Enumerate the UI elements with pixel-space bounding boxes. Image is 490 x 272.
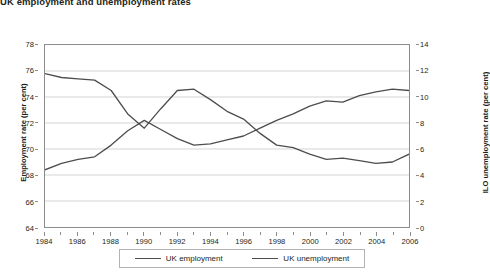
y-tick-label: 72 xyxy=(26,118,34,127)
y-tick-mark xyxy=(416,96,419,97)
series-line-1 xyxy=(45,89,409,170)
y-tick-label: 70 xyxy=(26,145,34,154)
y-axis-right-labels: 02468101214 xyxy=(416,44,438,228)
x-tick-label: 1984 xyxy=(36,237,53,246)
y-tick-mark xyxy=(35,44,38,45)
x-tick-mark-minor xyxy=(60,232,61,235)
y-tick-label: 66 xyxy=(26,197,34,206)
chart-legend: UK employmentUK unemployment xyxy=(119,249,365,268)
legend-line-swatch xyxy=(252,258,278,259)
y-tick-label: 74 xyxy=(26,92,34,101)
x-tick-label: 1988 xyxy=(102,237,119,246)
x-tick-mark-major xyxy=(343,232,344,236)
x-tick-mark-major xyxy=(276,232,277,236)
x-tick-label: 2000 xyxy=(302,237,319,246)
series-line-2 xyxy=(45,74,409,164)
plot-area xyxy=(44,44,410,228)
y-tick-label: 6 xyxy=(420,145,424,154)
legend-label: UK employment xyxy=(166,254,223,263)
y-tick-label: 14 xyxy=(420,40,428,49)
y-tick-mark xyxy=(416,175,419,176)
y-tick-mark xyxy=(416,70,419,71)
x-tick-label: 1992 xyxy=(169,237,186,246)
y-tick-label: 76 xyxy=(26,66,34,75)
x-tick-mark-major xyxy=(210,232,211,236)
x-tick-mark-minor xyxy=(293,232,294,235)
y-tick-label: 2 xyxy=(420,197,424,206)
x-tick-mark-major xyxy=(310,232,311,236)
y-tick-label: 78 xyxy=(26,40,34,49)
legend-label: UK unemployment xyxy=(283,254,349,263)
x-tick-mark-major xyxy=(44,232,45,236)
x-tick-label: 1994 xyxy=(202,237,219,246)
chart-svg xyxy=(45,45,409,227)
x-tick-mark-minor xyxy=(160,232,161,235)
y-axis-right-title: ILO unemployment rate (per cent) xyxy=(481,38,490,228)
x-tick-mark-minor xyxy=(193,232,194,235)
y-tick-label: 8 xyxy=(420,118,424,127)
x-tick-mark-major xyxy=(77,232,78,236)
x-tick-mark-minor xyxy=(227,232,228,235)
y-tick-label: 64 xyxy=(26,224,34,233)
x-tick-mark-minor xyxy=(127,232,128,235)
y-tick-mark xyxy=(416,149,419,150)
y-tick-mark xyxy=(35,122,38,123)
gridlines xyxy=(45,71,409,201)
x-tick-mark-major xyxy=(143,232,144,236)
x-tick-label: 1986 xyxy=(69,237,86,246)
x-tick-mark-minor xyxy=(326,232,327,235)
x-tick-mark-major xyxy=(243,232,244,236)
x-tick-label: 2004 xyxy=(368,237,385,246)
x-tick-label: 2006 xyxy=(402,237,419,246)
y-tick-label: 10 xyxy=(420,92,428,101)
x-tick-mark-minor xyxy=(260,232,261,235)
x-tick-label: 1998 xyxy=(268,237,285,246)
x-tick-mark-major xyxy=(110,232,111,236)
legend-line-swatch xyxy=(135,258,161,259)
y-tick-label: 4 xyxy=(420,171,424,180)
legend-item-1[interactable]: UK employment xyxy=(135,254,223,263)
y-tick-mark xyxy=(416,228,419,229)
y-tick-mark xyxy=(35,96,38,97)
y-tick-label: 12 xyxy=(420,66,428,75)
y-tick-mark xyxy=(35,175,38,176)
x-tick-label: 2002 xyxy=(335,237,352,246)
y-tick-mark xyxy=(35,228,38,229)
x-tick-mark-major xyxy=(177,232,178,236)
series-lines xyxy=(45,74,409,170)
y-tick-mark xyxy=(416,201,419,202)
y-tick-label: 68 xyxy=(26,171,34,180)
x-tick-mark-major xyxy=(376,232,377,236)
y-tick-mark xyxy=(35,149,38,150)
x-tick-mark-minor xyxy=(93,232,94,235)
x-tick-label: 1996 xyxy=(235,237,252,246)
page-title: UK employment and unemployment rates xyxy=(0,0,191,7)
x-axis-labels: 1984198619881990199219941996199820002002… xyxy=(44,232,410,246)
y-tick-mark xyxy=(35,70,38,71)
y-axis-left-labels: 6466687072747678 xyxy=(18,44,38,228)
y-tick-mark xyxy=(416,44,419,45)
y-tick-label: 0 xyxy=(420,224,424,233)
y-tick-mark xyxy=(416,122,419,123)
x-tick-label: 1990 xyxy=(135,237,152,246)
legend-item-2[interactable]: UK unemployment xyxy=(252,254,349,263)
x-tick-mark-minor xyxy=(393,232,394,235)
x-tick-mark-minor xyxy=(360,232,361,235)
x-tick-mark-major xyxy=(410,232,411,236)
y-tick-mark xyxy=(35,201,38,202)
